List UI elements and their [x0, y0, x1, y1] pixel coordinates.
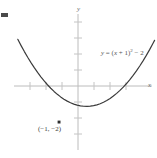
x-axis-label: x	[148, 82, 151, 89]
vertex-coordinate-label: (−1, −2)	[38, 126, 61, 133]
graph-canvas	[0, 0, 157, 158]
curve-equation-label: y = (x + 1)2 − 2	[101, 50, 144, 57]
equation-equals: =	[104, 49, 111, 57]
equation-constant: 2	[140, 49, 144, 57]
vertex-marker	[58, 121, 61, 124]
axis-lines	[14, 14, 152, 150]
y-axis-label: y	[77, 6, 80, 13]
parabola-figure: y x y = (x + 1)2 − 2 (−1, −2)	[0, 0, 157, 158]
